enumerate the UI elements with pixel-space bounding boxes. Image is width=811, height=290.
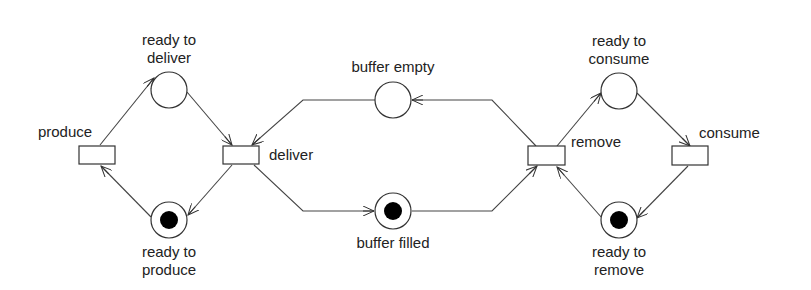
- place-label: ready to: [142, 31, 196, 48]
- petri-net-diagram: ready to deliver ready to produce buffer…: [0, 0, 811, 290]
- place-label: ready to: [142, 243, 196, 260]
- transition-label: consume: [699, 124, 760, 141]
- arc-buffer-filled-to-remove: [412, 166, 537, 211]
- place-ready-to-remove[interactable]: ready to remove: [592, 202, 646, 278]
- arc-buffer-empty-to-deliver: [252, 100, 375, 145]
- arc-ready-to-deliver-to-deliver: [187, 92, 232, 145]
- transition-deliver[interactable]: deliver: [223, 146, 313, 164]
- transition-remove[interactable]: remove: [528, 133, 621, 165]
- place-label: buffer filled: [356, 234, 429, 251]
- arc-ready-to-remove-to-remove: [557, 167, 602, 218]
- arc-ready-to-produce-to-produce: [101, 166, 151, 217]
- transition-label: remove: [571, 133, 621, 150]
- arc-ready-to-consume-to-consume: [637, 93, 690, 146]
- arc-remove-to-buffer-empty: [412, 100, 536, 146]
- transition-consume[interactable]: consume: [672, 124, 760, 165]
- token-icon: [384, 202, 402, 220]
- arc-deliver-to-ready-to-produce: [188, 165, 232, 215]
- place-label: produce: [142, 261, 196, 278]
- place-label: ready to: [592, 32, 646, 49]
- place-label: deliver: [147, 49, 191, 66]
- token-icon: [160, 211, 178, 229]
- arc-consume-to-ready-to-remove: [637, 166, 688, 218]
- token-icon: [610, 211, 628, 229]
- place-buffer-filled[interactable]: buffer filled: [356, 193, 429, 251]
- transition-label: produce: [38, 123, 92, 140]
- transition-label: deliver: [269, 146, 313, 163]
- place-label: ready to: [592, 243, 646, 260]
- arc-deliver-to-buffer-filled: [254, 165, 374, 211]
- place-label: buffer empty: [351, 58, 435, 75]
- place-ready-to-produce[interactable]: ready to produce: [142, 202, 196, 278]
- place-ready-to-deliver[interactable]: ready to deliver: [142, 31, 196, 108]
- place-label: consume: [589, 50, 650, 67]
- arc-produce-to-ready-to-deliver: [100, 78, 154, 145]
- transition-produce[interactable]: produce: [38, 123, 115, 164]
- place-label: remove: [594, 261, 644, 278]
- place-buffer-empty[interactable]: buffer empty: [351, 58, 435, 118]
